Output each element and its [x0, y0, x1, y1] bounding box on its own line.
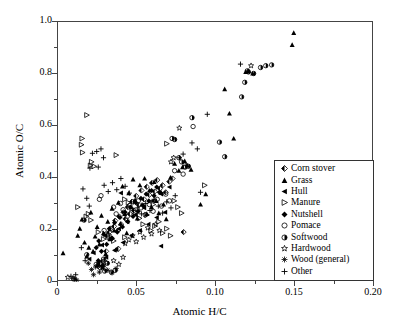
open-triangle-right-icon [278, 198, 291, 207]
series-softwood [82, 63, 274, 275]
y-tick [52, 229, 57, 230]
legend-label: Nutshell [291, 209, 323, 220]
x-tick-label: 0.10 [185, 286, 245, 297]
filled-diamond-icon [278, 210, 291, 219]
legend-label: Wood (general) [291, 254, 349, 265]
legend-item-pomace[interactable]: Pomace [278, 220, 370, 231]
y-axis-title: Atomic O/C [13, 96, 25, 206]
x-tick-label: 0.05 [106, 286, 166, 297]
x-minor-tick [255, 281, 256, 284]
series-wood-general [72, 261, 119, 282]
legend-item-manure[interactable]: Manure [278, 197, 370, 208]
legend-label: Other [291, 266, 312, 277]
x-minor-tick [176, 281, 177, 284]
legend-label: Hull [291, 186, 308, 197]
filled-triangle-left-icon [278, 187, 291, 196]
y-minor-tick [54, 151, 57, 152]
x-tick-label: 0.15 [264, 286, 324, 297]
y-tick [52, 73, 57, 74]
star-icon [278, 244, 291, 253]
legend-label: Corn stover [291, 163, 335, 174]
legend-label: Hardwood [291, 243, 331, 254]
series-grass [61, 30, 297, 258]
legend-label: Softwood [291, 232, 327, 243]
y-tick [52, 177, 57, 178]
legend-box: Corn stoverGrassHullManureNutshellPomace… [274, 160, 374, 281]
y-minor-tick [54, 203, 57, 204]
legend-item-hardwood[interactable]: Hardwood [278, 243, 370, 254]
legend-item-grass[interactable]: Grass [278, 174, 370, 185]
series-manure [76, 113, 208, 244]
open-circle-icon [278, 221, 291, 230]
y-minor-tick [54, 47, 57, 48]
filled-triangle-up-icon [278, 176, 291, 185]
x-tick-label: 0 [27, 286, 87, 297]
right-half-filled-circle-icon [278, 233, 291, 242]
y-tick-label: 0.2 [12, 222, 52, 233]
legend-item-hull[interactable]: Hull [278, 186, 370, 197]
legend-label: Grass [291, 175, 312, 186]
legend-item-other[interactable]: Other [278, 266, 370, 277]
scatter-plot-figure: 00.050.100.150.20 00.20.40.60.81.0 Atomi… [0, 0, 399, 331]
plus-icon [278, 267, 291, 276]
legend-item-wood-general[interactable]: Wood (general) [278, 254, 370, 265]
legend-item-corn-stover[interactable]: Corn stover [278, 163, 370, 174]
x-minor-tick [97, 281, 98, 284]
x-tick-label: 0.20 [343, 286, 399, 297]
y-minor-tick [54, 99, 57, 100]
left-half-filled-diamond-icon [278, 164, 291, 173]
legend-item-softwood[interactable]: Softwood [278, 231, 370, 242]
legend-label: Pomace [291, 220, 321, 231]
y-tick-label: 1.0 [12, 14, 52, 25]
asterisk-square-icon [278, 255, 291, 264]
legend-label: Manure [291, 197, 320, 208]
series-hardwood [65, 63, 253, 280]
y-minor-tick [54, 255, 57, 256]
x-axis-title: Atomic H/C [0, 305, 399, 317]
y-tick-label: 0.8 [12, 66, 52, 77]
y-tick-label: 0 [12, 274, 52, 285]
legend-item-nutshell[interactable]: Nutshell [278, 209, 370, 220]
y-tick [52, 281, 57, 282]
x-minor-tick [334, 281, 335, 284]
y-tick [52, 21, 57, 22]
y-tick [52, 125, 57, 126]
